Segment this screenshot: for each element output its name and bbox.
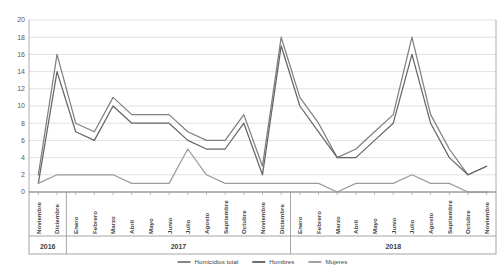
x-axis-month-label: Agosto xyxy=(203,212,210,234)
x-axis-month-label: Junio xyxy=(166,217,173,234)
y-axis-tick-label: 16 xyxy=(17,51,25,58)
x-axis-month-label: Enero xyxy=(296,216,303,234)
x-axis-month-label: Junio xyxy=(390,217,397,234)
chart-canvas: 02468101214161820NoviembreDiciembreEnero… xyxy=(0,0,502,274)
x-axis-month-label: Julio xyxy=(184,219,191,234)
x-axis-month-label: Octubre xyxy=(240,210,247,234)
y-axis-tick-label: 14 xyxy=(17,68,25,75)
chart-svg: 02468101214161820NoviembreDiciembreEnero… xyxy=(0,0,502,274)
x-axis-month-label: Abril xyxy=(352,220,359,234)
y-axis-tick-label: 8 xyxy=(21,120,25,127)
x-axis-month-label: Agosto xyxy=(427,212,434,234)
x-axis-month-label: Mayo xyxy=(147,218,154,234)
x-axis-month-label: Abril xyxy=(128,220,135,234)
legend-label-3: Mujeres xyxy=(325,258,347,265)
y-axis-tick-label: 20 xyxy=(17,16,25,23)
x-axis-month-label: Septiembre xyxy=(446,200,453,234)
x-axis-month-label: Octubre xyxy=(464,210,471,234)
x-axis-year-label: 2017 xyxy=(171,243,187,250)
x-axis-month-label: Noviembre xyxy=(35,201,42,234)
x-axis-month-label: Diciembre xyxy=(53,204,60,234)
x-axis-month-label: Mayo xyxy=(371,218,378,234)
x-axis-month-label: Noviembre xyxy=(259,201,266,234)
x-axis-month-label: Julio xyxy=(408,219,415,234)
x-axis-month-label: Febrero xyxy=(315,211,322,234)
x-axis-month-label: Enero xyxy=(72,216,79,234)
x-axis-year-label: 2018 xyxy=(385,243,401,250)
x-axis-month-label: Septiembre xyxy=(222,200,229,234)
x-axis-year-label: 2016 xyxy=(40,243,56,250)
y-axis-tick-label: 10 xyxy=(17,102,25,109)
x-axis-month-label: Diciembre xyxy=(278,204,285,234)
y-axis-tick-label: 6 xyxy=(21,137,25,144)
legend-label-1: Homicidios total xyxy=(195,258,239,265)
y-axis-tick-label: 18 xyxy=(17,34,25,41)
y-axis-tick-label: 12 xyxy=(17,85,25,92)
x-axis-month-label: Marzo xyxy=(334,216,341,234)
y-axis-tick-label: 0 xyxy=(21,188,25,195)
x-axis-month-label: Febrero xyxy=(91,211,98,234)
legend-label-2: Hombres xyxy=(269,258,294,265)
x-axis-month-label: Marzo xyxy=(109,216,116,234)
y-axis-tick-label: 4 xyxy=(21,154,25,161)
line-chart: 02468101214161820NoviembreDiciembreEnero… xyxy=(0,0,502,274)
y-axis-tick-label: 2 xyxy=(21,171,25,178)
x-axis-month-label: Noviembre xyxy=(483,201,490,234)
